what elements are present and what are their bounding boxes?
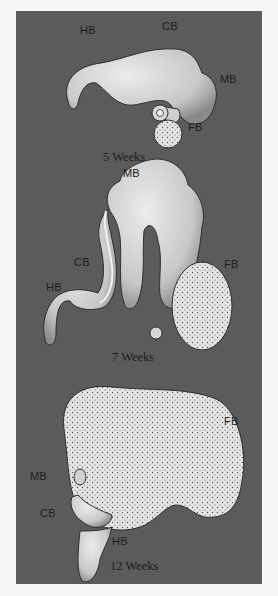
caption-5-weeks: 5 Weeks	[103, 150, 145, 165]
label-midbrain-7wk: MB	[123, 167, 140, 179]
label-cerebellum-7wk: CB	[74, 256, 90, 268]
brain-development-figure: HB CB MB FB 5 Weeks MB CB HB FB 7 Weeks …	[16, 11, 262, 584]
brain-12-weeks	[63, 386, 243, 581]
label-hindbrain-7wk: HB	[46, 281, 62, 293]
label-midbrain-5wk: MB	[220, 73, 237, 85]
label-forebrain-5wk: FB	[188, 121, 202, 133]
label-hindbrain-5wk: HB	[80, 24, 96, 36]
label-midbrain-12wk: MB	[30, 470, 47, 482]
label-forebrain-12wk: FB	[224, 415, 238, 427]
brain-5-weeks	[67, 49, 217, 148]
caption-12-weeks: 12 Weeks	[110, 559, 158, 574]
label-cerebellum-12wk: CB	[40, 507, 56, 519]
brain-illustrations	[16, 11, 262, 584]
label-forebrain-7wk: FB	[224, 258, 238, 270]
label-cerebellum-5wk: CB	[162, 20, 178, 32]
label-hindbrain-12wk: HB	[112, 535, 128, 547]
brain-7-weeks	[44, 159, 232, 350]
caption-7-weeks: 7 Weeks	[112, 350, 154, 365]
